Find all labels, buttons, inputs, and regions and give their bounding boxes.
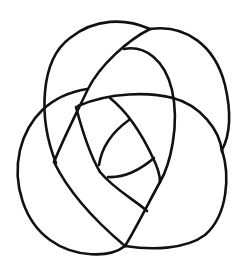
knot-diagram-canvas [0,0,242,277]
knot-diagram [0,0,242,277]
